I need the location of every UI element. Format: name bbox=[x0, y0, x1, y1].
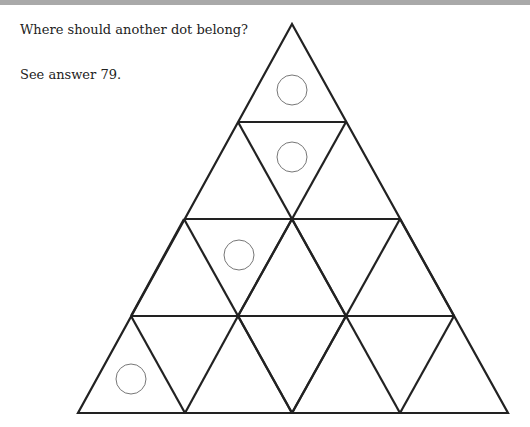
dot-3 bbox=[224, 240, 254, 270]
dot-4 bbox=[116, 364, 146, 394]
dot-1 bbox=[277, 75, 307, 105]
triangle-puzzle-figure bbox=[0, 0, 530, 427]
dot-2 bbox=[277, 142, 307, 172]
